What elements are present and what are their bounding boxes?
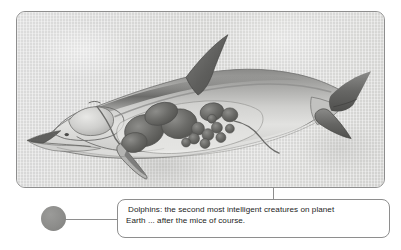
- blowhole: [89, 101, 101, 102]
- caption-box: Dolphins: the second most intelligent cr…: [117, 199, 390, 238]
- caption-text: Dolphins: the second most intelligent cr…: [126, 204, 382, 227]
- leader-line-horizontal: [64, 219, 118, 220]
- fluke-upper: [329, 71, 371, 111]
- organ-spleen: [222, 108, 238, 122]
- illustration-frame: [16, 11, 385, 188]
- dolphin-anatomy-illustration: [17, 12, 384, 187]
- eye: [65, 133, 69, 136]
- bullet-marker: [41, 206, 66, 231]
